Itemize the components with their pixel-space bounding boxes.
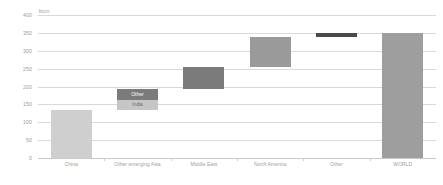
x-axis-tick-label: Other [303, 161, 369, 167]
gridline [38, 33, 436, 34]
gridline [38, 140, 436, 141]
x-axis-tick-mark [104, 158, 105, 161]
segment-label-other: Other [117, 92, 158, 97]
x-axis-tick-label: China [38, 161, 104, 167]
y-axis-tick-label: 50 [2, 137, 32, 143]
x-axis-tick-mark [370, 158, 371, 161]
segment-label-india: India [117, 102, 158, 107]
y-axis-tick-label: 200 [2, 84, 32, 90]
bar-other [316, 15, 357, 158]
x-axis-tick-labels: ChinaOther emerging AsiaMiddle EastNorth… [38, 161, 436, 179]
x-axis-tick-label: WORLD [370, 161, 436, 167]
x-axis-tick-label: North America [237, 161, 303, 167]
gridline [38, 15, 436, 16]
bar-world [382, 15, 423, 158]
gridline [38, 87, 436, 88]
gridline [38, 69, 436, 70]
y-axis-unit-label: bcm [39, 8, 49, 14]
bar-other-emerging-asia: IndiaOther [117, 15, 158, 158]
bar-china [51, 15, 92, 158]
x-axis-tick-label: Other emerging Asia [104, 161, 170, 167]
x-axis-tick-label: Middle East [171, 161, 237, 167]
y-axis-tick-label: 250 [2, 66, 32, 72]
bar-segment [382, 33, 423, 158]
y-axis-tick-label: 150 [2, 101, 32, 107]
bar-segment [316, 33, 357, 37]
bar-segment [183, 67, 224, 89]
y-axis-tick-label: 0 [2, 155, 32, 161]
bar-segment [250, 37, 291, 67]
x-axis-tick-mark [171, 158, 172, 161]
bar-north-america [250, 15, 291, 158]
x-axis-tick-mark [237, 158, 238, 161]
waterfall-chart: bcm 050100150200250300350400 IndiaOther … [0, 0, 443, 185]
bar-segment [51, 110, 92, 158]
y-axis-tick-label: 300 [2, 48, 32, 54]
x-axis-tick-mark [303, 158, 304, 161]
bar-middle-east [183, 15, 224, 158]
y-axis-tick-label: 350 [2, 30, 32, 36]
y-axis-tick-labels: 050100150200250300350400 [0, 15, 34, 158]
y-axis-tick-label: 400 [2, 12, 32, 18]
gridline [38, 122, 436, 123]
gridline [38, 104, 436, 105]
y-axis-tick-label: 100 [2, 119, 32, 125]
plot-area: IndiaOther [38, 15, 436, 158]
gridline [38, 51, 436, 52]
